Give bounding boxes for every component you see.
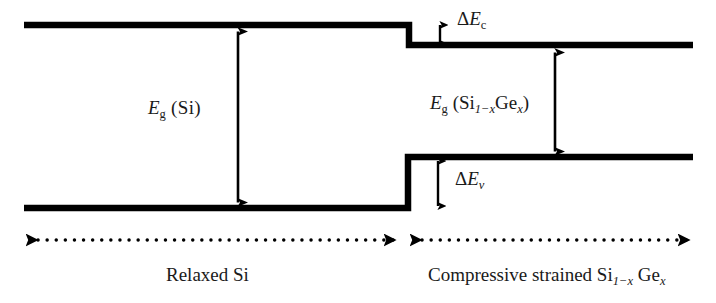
- bandgap-si-label: Eg (Si): [148, 98, 201, 117]
- region-label-strained-ge-subscript: x: [660, 274, 666, 288]
- bandgap-si-symbol: E: [148, 97, 160, 118]
- delta-ec-label: ΔEc: [457, 9, 486, 28]
- bandgap-sige-label: Eg (Si1−xGex): [430, 93, 529, 112]
- band-diagram-figure: Eg (Si) Eg (Si1−xGex) ΔEc ΔEv Relaxed Si…: [0, 0, 716, 303]
- region-label-strained-text: Compressive strained Si: [428, 264, 613, 285]
- bandgap-sige-si-subscript: 1−x: [475, 102, 495, 116]
- bandgap-sige-close-paren: ): [523, 92, 529, 113]
- delta-ec-subscript: c: [481, 18, 487, 32]
- delta-ev-symbol: E: [467, 168, 479, 189]
- region-label-strained-ge: Ge: [633, 264, 660, 285]
- delta-ev-label: ΔEv: [455, 169, 484, 188]
- delta-ec-symbol: E: [469, 8, 481, 29]
- delta-ec-delta: Δ: [457, 8, 469, 29]
- delta-ev-delta: Δ: [455, 168, 467, 189]
- bandgap-sige-open-paren: (Si: [448, 92, 475, 113]
- delta-ev-subscript: v: [479, 178, 485, 192]
- region-label-strained-sige: Compressive strained Si1−x Gex: [428, 265, 665, 284]
- bandgap-sige-ge: Ge: [495, 92, 517, 113]
- band-diagram-canvas: [0, 0, 716, 303]
- bandgap-si-material: (Si): [166, 97, 201, 118]
- valence-band-edge: [24, 157, 693, 208]
- conduction-band-edge: [24, 25, 693, 45]
- region-label-strained-si-subscript: 1−x: [613, 274, 633, 288]
- bandgap-sige-symbol: E: [430, 92, 442, 113]
- region-label-relaxed-si: Relaxed Si: [166, 265, 249, 284]
